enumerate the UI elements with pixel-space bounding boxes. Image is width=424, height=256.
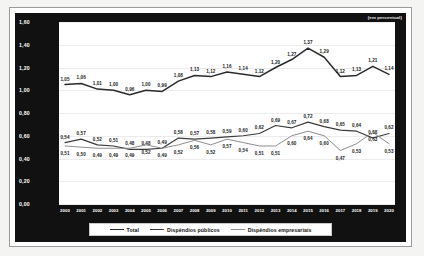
data-label: 0,50: [77, 152, 86, 157]
x-tick-label: 2018: [352, 208, 362, 213]
data-label: 0,47: [336, 155, 345, 160]
data-label: 0,52: [174, 149, 183, 154]
legend-swatch: [231, 229, 245, 230]
data-label: 0,58: [368, 130, 377, 135]
chart-panel: (em percentual) 0,000,200,400,600,801,00…: [15, 13, 406, 242]
data-label: 0,72: [303, 114, 312, 119]
data-label: 1,27: [287, 51, 296, 56]
data-label: 0,64: [352, 123, 361, 128]
data-label: 0,60: [239, 127, 248, 132]
x-tick-label: 2011: [238, 208, 248, 213]
legend-label: Total: [127, 227, 140, 233]
legend-label: Dispêndios empresariais: [248, 227, 312, 233]
data-label: 1,06: [77, 75, 86, 80]
data-label: 1,16: [222, 64, 231, 69]
data-label: 0,57: [222, 144, 231, 149]
data-label: 0,57: [190, 131, 199, 136]
data-label: 0,49: [93, 153, 102, 158]
data-label: 0,62: [255, 125, 264, 130]
data-label: 1,14: [239, 66, 248, 71]
series-lines: [59, 22, 395, 204]
data-label: 1,00: [109, 82, 118, 87]
x-tick-label: 2005: [141, 208, 151, 213]
legend-item[interactable]: Total: [110, 227, 140, 233]
data-label: 0,58: [206, 130, 215, 135]
data-label: 0,60: [287, 140, 296, 145]
legend-label: Dispêndios públicos: [167, 227, 220, 233]
data-label: 0,54: [60, 134, 69, 139]
data-label: 1,08: [174, 73, 183, 78]
data-label: 1,37: [303, 40, 312, 45]
chart-figure: (em percentual) 0,000,200,400,600,801,00…: [0, 0, 424, 256]
data-label: 1,29: [320, 49, 329, 54]
data-label: 0,59: [222, 128, 231, 133]
data-label: 1,05: [60, 76, 69, 81]
legend-swatch: [150, 229, 164, 230]
data-label: 0,48: [125, 141, 134, 146]
y-tick-label: 0,40: [19, 156, 30, 162]
data-label: 0,68: [320, 118, 329, 123]
x-tick-label: 2019: [368, 208, 378, 213]
legend-item[interactable]: Dispêndios empresariais: [231, 227, 312, 233]
data-label: 1,20: [271, 59, 280, 64]
legend-item[interactable]: Dispêndios públicos: [150, 227, 220, 233]
x-tick-label: 2015: [303, 208, 313, 213]
x-tick-label: 2020: [384, 208, 394, 213]
x-tick-label: 2007: [174, 208, 184, 213]
x-tick-label: 2004: [125, 208, 135, 213]
x-tick-label: 2017: [336, 208, 346, 213]
data-label: 0,65: [336, 122, 345, 127]
data-label: 0,51: [271, 150, 280, 155]
data-label: 0,67: [287, 119, 296, 124]
x-tick-label: 2012: [255, 208, 265, 213]
data-label: 0,56: [190, 145, 199, 150]
data-label: 0,49: [158, 140, 167, 145]
data-label: 0,51: [255, 150, 264, 155]
data-label: 0,48: [141, 141, 150, 146]
data-label: 0,53: [384, 148, 393, 153]
data-label: 0,51: [109, 137, 118, 142]
data-label: 1,21: [368, 58, 377, 63]
x-tick-label: 2000: [60, 208, 70, 213]
data-label: 0,63: [368, 137, 377, 142]
x-tick-label: 2010: [222, 208, 232, 213]
data-label: 1,12: [206, 68, 215, 73]
y-tick-label: 0,20: [19, 178, 30, 184]
data-label: 0,49: [125, 153, 134, 158]
x-tick-label: 2014: [287, 208, 297, 213]
data-label: 0,99: [158, 83, 167, 88]
x-tick-label: 2001: [76, 208, 86, 213]
x-tick-label: 2016: [319, 208, 329, 213]
y-tick-label: 1,20: [19, 65, 30, 71]
data-label: 0,64: [303, 136, 312, 141]
y-tick-label: 0,60: [19, 133, 30, 139]
gridline: [59, 204, 395, 205]
legend-swatch: [110, 229, 124, 230]
y-tick-label: 1,00: [19, 87, 30, 93]
y-tick-label: 0,00: [19, 201, 30, 207]
data-label: 0,53: [352, 148, 361, 153]
y-tick-label: 0,80: [19, 110, 30, 116]
unit-annotation: (em percentual): [368, 15, 402, 20]
data-label: 0,49: [109, 153, 118, 158]
x-tick-label: 2013: [271, 208, 281, 213]
y-tick-label: 1,40: [19, 42, 30, 48]
data-label: 0,60: [320, 140, 329, 145]
x-tick-label: 2002: [93, 208, 103, 213]
y-tick-label: 1,60: [19, 19, 30, 25]
data-label: 0,96: [125, 86, 134, 91]
x-tick-label: 2008: [190, 208, 200, 213]
data-label: 1,13: [352, 67, 361, 72]
chart-legend: TotalDispêndios públicosDispêndios empre…: [89, 223, 332, 236]
data-label: 0,52: [93, 136, 102, 141]
data-label: 1,12: [255, 68, 264, 73]
x-tick-label: 2006: [157, 208, 167, 213]
data-label: 0,49: [158, 153, 167, 158]
data-label: 0,58: [174, 130, 183, 135]
data-label: 1,00: [141, 82, 150, 87]
data-label: 0,52: [206, 149, 215, 154]
data-label: 0,57: [77, 131, 86, 136]
data-label: 1,01: [93, 81, 102, 86]
plot-area: 1,051,061,011,000,961,000,991,081,131,12…: [59, 22, 395, 204]
data-label: 1,12: [336, 68, 345, 73]
